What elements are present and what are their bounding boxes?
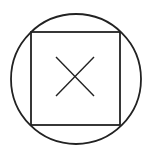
diagram-canvas: [0, 0, 143, 148]
diagram-svg: [0, 0, 143, 148]
x-mark-icon: [56, 57, 94, 96]
inscribed-square: [31, 32, 120, 125]
